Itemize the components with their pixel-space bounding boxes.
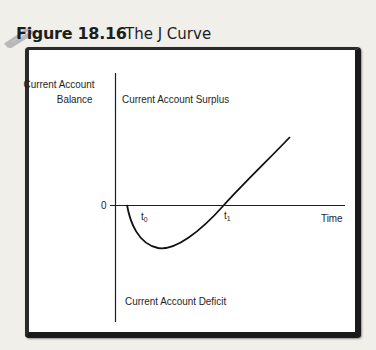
j-curve-line [127, 137, 290, 248]
t1-subscript: 1 [227, 214, 231, 223]
y-axis-label-line1: Current Account [23, 78, 94, 90]
t0-subscript: 0 [144, 215, 148, 224]
t0-label: t0 [141, 210, 148, 224]
deficit-label: Current Account Deficit [125, 295, 226, 307]
zero-label: 0 [101, 199, 107, 211]
t1-label: t1 [224, 209, 231, 223]
y-axis-label-line2: Balance [57, 93, 93, 105]
surplus-label: Current Account Surplus [122, 93, 229, 105]
time-label: Time [321, 212, 343, 224]
